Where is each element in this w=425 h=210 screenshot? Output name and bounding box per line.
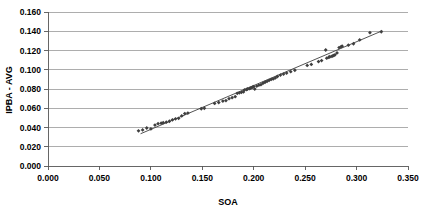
x-tick-label: 0.350	[397, 173, 419, 183]
x-tick-label: 0.200	[243, 173, 265, 183]
y-tick-labels: 0.0000.0200.0400.0600.0800.1000.1200.140…	[20, 7, 42, 171]
y-tick-label: 0.060	[20, 103, 42, 113]
x-tick-label: 0.050	[89, 173, 111, 183]
y-tick-label: 0.120	[20, 46, 42, 56]
y-tick-label: 0.020	[20, 142, 42, 152]
scatter-plot: 0.0000.0200.0400.0600.0800.1000.1200.140…	[0, 0, 425, 210]
y-tick-label: 0.080	[20, 84, 42, 94]
y-tick-label: 0.160	[20, 7, 42, 17]
x-tick-label: 0.300	[346, 173, 368, 183]
y-tick-label: 0.140	[20, 26, 42, 36]
x-tick-label: 0.150	[192, 173, 214, 183]
y-tick-label: 0.100	[20, 65, 42, 75]
x-axis-title: SOA	[218, 197, 238, 207]
x-tick-label: 0.000	[37, 173, 59, 183]
y-axis-title: IPBA - AVG	[4, 66, 14, 114]
y-tick-label: 0.000	[20, 161, 42, 171]
y-tick-label: 0.040	[20, 123, 42, 133]
x-tick-label: 0.100	[140, 173, 162, 183]
x-tick-label: 0.250	[295, 173, 317, 183]
chart-container: 0.0000.0200.0400.0600.0800.1000.1200.140…	[0, 0, 425, 210]
